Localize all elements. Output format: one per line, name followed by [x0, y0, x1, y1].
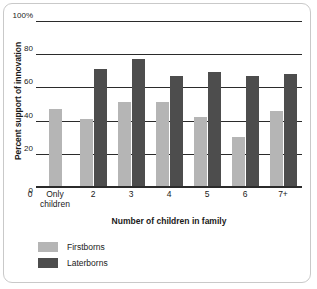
- bar-group: [36, 21, 74, 187]
- x-tick-label-7+: 7+: [264, 189, 302, 199]
- bar-firstborns-7+: [270, 111, 283, 187]
- bar-group: [226, 21, 264, 187]
- bar-group: [188, 21, 226, 187]
- chart-figure: Percent support of innovation 0204060801…: [0, 0, 317, 289]
- bar-group: [150, 21, 188, 187]
- legend-swatch-firstborns: [38, 242, 58, 252]
- bar-firstborns-3: [118, 102, 131, 187]
- y-axis-title: Percent support of innovation: [13, 21, 23, 181]
- y-tick-label-40: 40: [24, 111, 33, 121]
- legend-swatch-laterborns: [38, 258, 58, 268]
- x-tick-label-5: 5: [188, 189, 226, 199]
- x-axis-line: [36, 186, 302, 188]
- bar-group: [264, 21, 302, 187]
- x-tick-label-6: 6: [226, 189, 264, 199]
- bar-firstborns-Only-children: [49, 109, 62, 187]
- legend-item-firstborns: Firstborns: [38, 240, 108, 253]
- x-tick-label-3: 3: [112, 189, 150, 199]
- bar-laterborns-7+: [284, 74, 297, 187]
- y-tick-label-80: 80: [24, 44, 33, 54]
- x-tick-label-4: 4: [150, 189, 188, 199]
- legend-item-laterborns: Laterborns: [38, 256, 108, 269]
- y-tick-label-60: 60: [24, 77, 33, 87]
- y-tick-label-100: 100%: [13, 11, 33, 21]
- bar-firstborns-2: [80, 119, 93, 187]
- bar-laterborns-3: [132, 59, 145, 187]
- bar-laterborns-4: [170, 76, 183, 187]
- bar-laterborns-5: [208, 72, 221, 187]
- y-tick-label-20: 20: [24, 144, 33, 154]
- bar-group: [112, 21, 150, 187]
- bar-laterborns-2: [94, 69, 107, 187]
- bar-series-container: [36, 21, 302, 187]
- legend-label-firstborns: Firstborns: [67, 242, 105, 252]
- x-axis-title: Number of children in family: [36, 216, 302, 226]
- chart-legend: FirstbornsLaterborns: [38, 240, 108, 272]
- bar-firstborns-4: [156, 102, 169, 187]
- plot-area: 020406080100%: [36, 21, 302, 187]
- bar-group: [74, 21, 112, 187]
- x-tick-label-2: 2: [74, 189, 112, 199]
- bar-laterborns-6: [246, 76, 259, 187]
- gridline-0: 0: [36, 187, 302, 188]
- x-tick-label-Only-children: Only children: [36, 189, 74, 209]
- bar-firstborns-6: [232, 137, 245, 187]
- bar-firstborns-5: [194, 117, 207, 187]
- legend-label-laterborns: Laterborns: [67, 258, 108, 268]
- x-axis-tick-labels: 0Only children234567+: [36, 189, 302, 215]
